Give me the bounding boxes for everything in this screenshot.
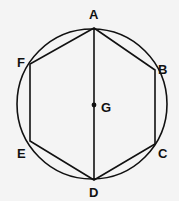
label-g: G: [101, 100, 111, 115]
label-e: E: [17, 146, 26, 161]
label-d: D: [89, 185, 98, 200]
label-b: B: [158, 62, 167, 77]
center-point-g: [92, 103, 97, 108]
label-c: C: [158, 146, 168, 161]
label-a: A: [89, 7, 99, 22]
geometry-diagram: A B C D E F G: [0, 0, 179, 201]
label-f: F: [17, 55, 25, 70]
